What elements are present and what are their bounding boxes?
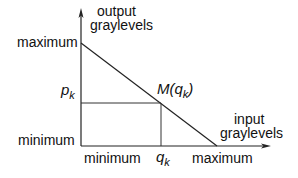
mapping-line (81, 43, 217, 146)
graylevel-mapping-diagram: output graylevels maximum minimum pk M(q… (0, 0, 298, 178)
y-axis-min-label: minimum (18, 133, 75, 147)
y-axis-title-line2: graylevels (90, 18, 153, 32)
point-m-prefix: M(q (157, 80, 183, 97)
point-m-subscript: k (183, 88, 189, 100)
point-m-suffix: ) (188, 80, 193, 97)
x-axis-title-line1: input (234, 112, 264, 126)
pk-subscript: k (69, 89, 75, 101)
pk-label: pk (61, 83, 75, 98)
x-axis-min-label: minimum (84, 151, 141, 165)
y-axis-max-label: maximum (17, 35, 78, 49)
qk-label: qk (156, 150, 170, 165)
x-axis-max-label: maximum (192, 151, 253, 165)
x-axis-title-line2: graylevels (220, 126, 283, 140)
y-axis-title-line1: output (97, 4, 136, 18)
point-m-label: M(qk) (157, 82, 193, 97)
qk-subscript: k (164, 156, 170, 168)
